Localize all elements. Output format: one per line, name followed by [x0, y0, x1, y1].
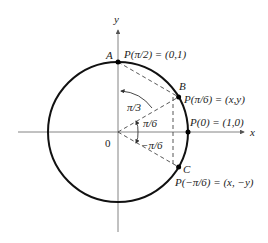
- unit-circle-diagram: y x 0 A P(π/2) = (0,1) B P(π/6) = (x,y) …: [0, 0, 268, 243]
- angle-label-neg-pi-6: −π/6: [141, 140, 163, 151]
- x-axis-label: x: [250, 127, 255, 138]
- angle-arc-neg-pi-6: [136, 132, 138, 143]
- point-A-description: P(π/2) = (0,1): [124, 49, 186, 60]
- point-P0-description: P(0) = (1,0): [190, 117, 244, 128]
- point-P0: [186, 130, 191, 135]
- point-B: [176, 95, 181, 100]
- origin-label: 0: [105, 138, 111, 149]
- point-B-description: P(π/6) = (x,y): [184, 94, 245, 105]
- point-A: [116, 60, 121, 65]
- point-C: [176, 165, 181, 170]
- y-axis-label: y: [114, 14, 119, 25]
- point-C-description: P(−π/6) = (x, −y): [175, 177, 253, 188]
- angle-arc-pi-6: [136, 121, 138, 132]
- point-B-label: B: [179, 81, 186, 92]
- angle-label-pi-6: π/6: [143, 118, 157, 129]
- point-A-label: A: [106, 50, 113, 61]
- angle-label-pi-3: π/3: [127, 102, 141, 113]
- point-C-label: C: [183, 164, 190, 175]
